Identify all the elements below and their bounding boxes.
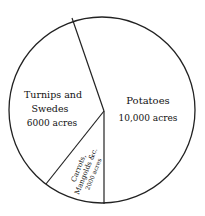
- turnips-label-2: Swedes: [32, 103, 69, 114]
- potatoes-value: 10,000 acres: [118, 113, 177, 123]
- potatoes-label: Potatoes: [126, 95, 169, 106]
- pie-chart: Potatoes 10,000 acres Turnips and Swedes…: [0, 0, 205, 216]
- turnips-value: 6000 acres: [27, 118, 78, 128]
- turnips-label-1: Turnips and: [24, 89, 82, 100]
